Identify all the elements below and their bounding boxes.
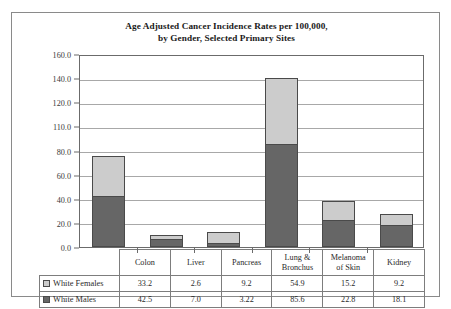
table-cell: 9.2 [221, 276, 272, 292]
bar-segment-white-females [92, 156, 125, 196]
bar-segment-white-males [207, 243, 240, 247]
table-row: White Males42.57.03.2285.622.818.1 [40, 292, 425, 308]
bar-segment-white-males [380, 225, 413, 247]
table-row: White Females33.22.69.254.915.29.2 [40, 276, 425, 292]
column-header-liver: Liver [170, 250, 221, 276]
x-axis-tick [367, 248, 368, 253]
plot-area [79, 55, 424, 248]
bar-group [150, 54, 183, 247]
table-cell: 3.22 [221, 292, 272, 308]
column-header-line: Pancreas [222, 258, 272, 268]
y-axis-tick-label: 40.0 [57, 195, 71, 204]
column-header-colon: Colon [120, 250, 171, 276]
column-header-lung-bronchus: Lung &Bronchus [272, 250, 323, 276]
y-axis-tick-label: 60.0 [57, 171, 71, 180]
column-header-line: of Skin [323, 263, 373, 273]
bar-group [207, 54, 240, 247]
gridline [80, 104, 423, 105]
bar-group [380, 54, 413, 247]
bar-segment-white-females [265, 78, 298, 144]
column-header-melanoma-of-skin: Melanomaof Skin [323, 250, 374, 276]
bar-segment-white-females [150, 235, 183, 238]
table-cell: 18.1 [374, 292, 425, 308]
table-header-row: ColonLiverPancreasLung &BronchusMelanoma… [40, 250, 425, 276]
bar-group [322, 54, 355, 247]
gridline [80, 128, 423, 129]
legend-swatch-icon [43, 296, 50, 303]
column-header-kidney: Kidney [374, 250, 425, 276]
table-corner-cell [40, 250, 120, 276]
column-header-line: Lung & [272, 253, 322, 263]
column-header-line: Bronchus [272, 263, 322, 273]
table-cell: 22.8 [323, 292, 374, 308]
legend-item-label: White Females [53, 279, 103, 288]
column-header-line: Colon [120, 258, 170, 268]
x-axis-tick [309, 248, 310, 253]
column-header-pancreas: Pancreas [221, 250, 272, 276]
gridline [80, 80, 423, 81]
table-cell: 2.6 [170, 276, 221, 292]
table-cell: 85.6 [272, 292, 323, 308]
table-cell: 33.2 [120, 276, 171, 292]
legend-swatch-icon [43, 280, 50, 287]
x-axis-tick [194, 248, 195, 253]
bar-segment-white-males [265, 144, 298, 247]
bar-group [92, 54, 125, 247]
column-header-line: Melanoma [323, 253, 373, 263]
table-cell: 42.5 [120, 292, 171, 308]
table-cell: 9.2 [374, 276, 425, 292]
legend-item-white-males: White Males [40, 292, 120, 308]
y-axis-tick-label: 110.0 [53, 123, 71, 132]
bar-segment-white-females [322, 201, 355, 219]
data-table: ColonLiverPancreasLung &BronchusMelanoma… [39, 249, 425, 308]
y-axis-tick-label: 120.0 [53, 99, 71, 108]
bar-segment-white-females [207, 232, 240, 243]
y-axis-tick-label: 160.0 [53, 51, 71, 60]
table-cell: 7.0 [170, 292, 221, 308]
y-axis-tick-label: 80.0 [57, 147, 71, 156]
bar-segment-white-females [380, 214, 413, 225]
column-header-line: Liver [171, 258, 221, 268]
data-table-wrapper: ColonLiverPancreasLung &BronchusMelanoma… [39, 249, 424, 308]
gridline [80, 200, 423, 201]
chart-title-line-1: Age Adjusted Cancer Incidence Rates per … [125, 21, 328, 31]
gridline [80, 224, 423, 225]
y-axis-tick-label: 140.0 [53, 75, 71, 84]
gridline [80, 152, 423, 153]
x-axis-tick [252, 248, 253, 253]
chart-frame: Age Adjusted Cancer Incidence Rates per … [11, 12, 440, 297]
bar-group [265, 54, 298, 247]
x-axis-tick [137, 248, 138, 253]
legend-item-white-females: White Females [40, 276, 120, 292]
y-axis-tick-label: 20.0 [57, 219, 71, 228]
table-cell: 54.9 [272, 276, 323, 292]
legend-item-label: White Males [53, 295, 96, 304]
table-cell: 15.2 [323, 276, 374, 292]
gridline [80, 176, 423, 177]
bar-segment-white-males [150, 239, 183, 247]
column-header-line: Kidney [374, 258, 424, 268]
bar-segment-white-males [92, 196, 125, 247]
bar-segment-white-males [322, 220, 355, 248]
